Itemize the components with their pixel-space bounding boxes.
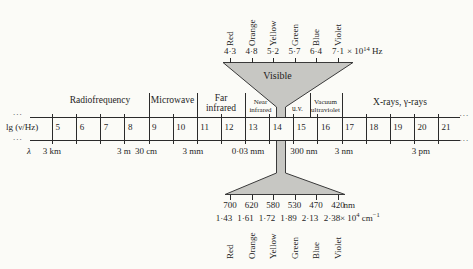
frequency-tick	[316, 58, 317, 63]
scale-divider	[100, 114, 101, 144]
frequency-tick	[273, 58, 274, 63]
lg-tick-number: 13	[249, 122, 258, 133]
scale-divider	[221, 114, 222, 144]
region-label-radiofrequency: Radiofrequency	[50, 96, 150, 106]
wavelength-label: 3 nm	[319, 146, 369, 157]
wavelength-label: 3 pm	[396, 146, 446, 157]
wavenumber-unit-exp2: −1	[373, 211, 380, 218]
scale-divider	[173, 114, 174, 144]
axis-ellipsis-top-left: ...	[13, 107, 23, 117]
lg-tick-number: 18	[369, 122, 378, 133]
lg-tick-number: 6	[80, 122, 85, 133]
scale-divider	[269, 114, 270, 144]
scale-divider	[245, 114, 246, 144]
lg-tick-number: 20	[417, 122, 426, 133]
top-color-label: Orange	[247, 20, 257, 47]
lg-tick-number: 15	[297, 122, 306, 133]
top-color-label: Red	[225, 32, 235, 47]
scale-divider	[293, 114, 294, 144]
scale-divider	[317, 114, 318, 144]
lg-tick-number: 8	[128, 122, 133, 133]
top-color-label: Green	[290, 24, 300, 46]
scale-divider	[438, 114, 439, 144]
scale-divider	[149, 114, 150, 144]
wavenumber-unit-mid: cm	[360, 213, 373, 223]
lg-tick-number: 5	[56, 122, 61, 133]
lg-tick-number: 7	[104, 122, 109, 133]
scale-divider	[342, 114, 343, 144]
wavelength-label: 3 mm	[168, 146, 218, 157]
scale-divider	[76, 114, 77, 144]
lg-tick-number: 19	[393, 122, 402, 133]
axis-ellipsis-top-right: ...	[460, 108, 470, 118]
lg-tick-number: 14	[273, 122, 282, 133]
region-label-vacuum: Vacuumultraviolet	[307, 99, 345, 114]
visible-wavelength-value: 420	[325, 200, 351, 211]
bottom-color-label: Violet	[333, 237, 343, 259]
lg-tick-number: 11	[200, 122, 209, 133]
wavelength-label: 0·03 mm	[223, 146, 273, 157]
top-color-label: Violet	[333, 24, 343, 46]
axis-ellipsis-bottom-right: ...	[460, 133, 470, 143]
wavenumber-value: 2·38	[317, 213, 347, 224]
wavelength-label: 30 cm	[121, 146, 171, 157]
axis-ellipsis-bottom-left: ...	[13, 132, 23, 142]
bottom-color-label: Yellow	[268, 233, 278, 259]
log-frequency-axis-label: lg (ν/Hz)	[6, 122, 38, 133]
lg-tick-number: 10	[176, 122, 185, 133]
bottom-color-label: Orange	[247, 232, 257, 259]
frequency-unit: × 1014 Hz	[347, 46, 383, 57]
em-spectrum-diagram: Visible × 1014 Hz lg (ν/Hz) λ nm × 104 c…	[0, 0, 473, 269]
region-label-u-v: u.v.	[287, 105, 309, 113]
region-label-far: Farinfrared	[195, 94, 247, 113]
bottom-color-label: Blue	[311, 242, 321, 259]
scale-divider	[124, 114, 125, 144]
lg-tick-number: 12	[224, 122, 233, 133]
top-color-label: Yellow	[268, 20, 278, 46]
visible-wavelength-tick	[316, 195, 317, 200]
frequency-unit-exponent: 14	[363, 45, 370, 52]
wavenumber-unit-exponent: 4	[356, 211, 359, 218]
scale-divider	[52, 114, 53, 144]
frequency-tick	[252, 58, 253, 63]
lg-tick-number: 17	[345, 122, 354, 133]
scale-divider	[390, 114, 391, 144]
scale-divider	[197, 114, 198, 144]
frequency-unit-suffix: Hz	[370, 46, 383, 56]
region-label-x-rays-rays: X-rays, γ-rays	[350, 98, 450, 108]
wavelength-label: 3 km	[27, 146, 77, 157]
visible-wavelength-tick	[338, 195, 339, 200]
frequency-tick	[338, 58, 339, 63]
visible-wavelength-tick	[230, 195, 231, 200]
frequency-value: 7·1	[325, 46, 351, 57]
lg-tick-number: 21	[442, 122, 451, 133]
scale-divider	[414, 114, 415, 144]
bottom-color-label: Red	[225, 244, 235, 259]
bottom-color-label: Green	[290, 237, 300, 259]
lg-tick-number: 9	[152, 122, 157, 133]
visible-funnel-label: Visible	[248, 70, 308, 81]
scale-divider	[366, 114, 367, 144]
lg-tick-number: 16	[321, 122, 330, 133]
region-label-near: Nearinfrared	[244, 99, 278, 114]
visible-wavelength-tick	[273, 195, 274, 200]
frequency-tick	[295, 58, 296, 63]
frequency-tick	[230, 58, 231, 63]
visible-wavelength-tick	[252, 195, 253, 200]
top-color-label: Blue	[311, 29, 321, 46]
visible-wavelength-tick	[295, 195, 296, 200]
region-label-microwave: Microwave	[143, 96, 203, 106]
